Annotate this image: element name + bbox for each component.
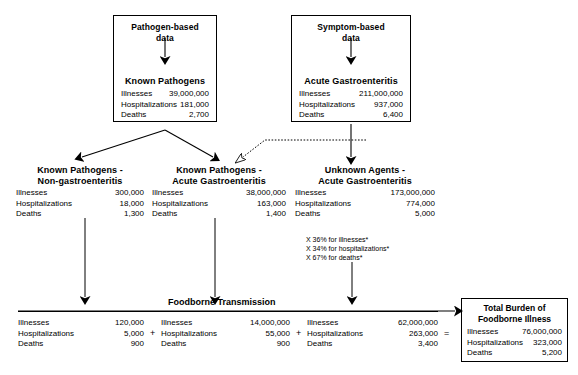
arrow-known-pathogens-to-non-gastro [82, 130, 165, 157]
connector-layer [0, 0, 578, 375]
flowchart-canvas: Pathogen-based data Known Pathogens Illn… [0, 0, 578, 375]
arrow-subtraction-dashed-connector [243, 140, 366, 157]
arrow-known-pathogens-to-acute-gastro [165, 130, 213, 157]
